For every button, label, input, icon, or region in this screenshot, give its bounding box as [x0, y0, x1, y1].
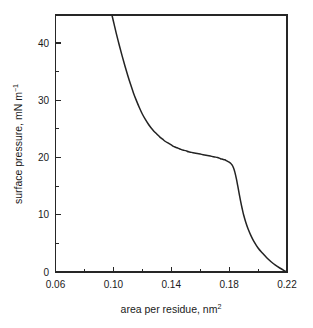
y-axis-title: surface pressure, mN m−1 — [11, 84, 24, 204]
x-tick-label: 0.06 — [46, 279, 66, 290]
y-axis-major-ticks — [56, 43, 61, 272]
y-tick-label: 40 — [38, 38, 50, 49]
y-tick-label: 20 — [38, 152, 50, 163]
x-tick-label: 0.10 — [104, 279, 124, 290]
x-tick-label: 0.14 — [162, 279, 182, 290]
chart-figure: 0.060.100.140.180.22 010203040 area per … — [0, 0, 313, 328]
y-tick-label: 0 — [43, 267, 49, 278]
plot-frame — [56, 15, 288, 272]
data-series-isotherm — [112, 15, 287, 272]
y-axis-tick-labels: 010203040 — [38, 38, 50, 278]
y-tick-label: 30 — [38, 95, 50, 106]
x-tick-label: 0.18 — [219, 279, 239, 290]
x-axis-title: area per residue, nm2 — [121, 302, 222, 315]
x-axis-tick-labels: 0.060.100.140.180.22 — [46, 279, 297, 290]
line-chart: 0.060.100.140.180.22 010203040 area per … — [0, 0, 313, 328]
y-tick-label: 10 — [38, 209, 50, 220]
x-axis-major-ticks — [56, 267, 288, 272]
x-tick-label: 0.22 — [277, 279, 297, 290]
